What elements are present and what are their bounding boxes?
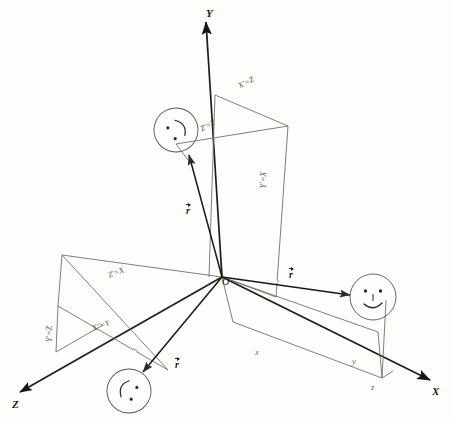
right-plane-top-edge: [222, 277, 378, 332]
upper-plane-top-edge: [215, 95, 288, 126]
face-left-eye: [364, 289, 367, 292]
left-plane-top-edge: [62, 255, 222, 277]
main-axes-group: [20, 22, 430, 392]
position-vectors-group: [143, 155, 350, 372]
face-right-eye: [166, 126, 170, 130]
z-axis-line: [20, 277, 222, 392]
right-plane-inner-vertical: [382, 300, 386, 378]
face-mouth: [175, 118, 188, 136]
vector-arrow-upper-left: [189, 155, 222, 277]
upper-plane-right-edge: [276, 126, 288, 297]
left-horizontal-plane: [56, 255, 222, 370]
face-outline-circle: [99, 361, 159, 421]
right-horizontal-plane: [222, 277, 393, 378]
left-plane-inner-diagonal: [62, 255, 168, 370]
left-plane-left-edge: [58, 255, 62, 306]
face-upper-left: [146, 100, 206, 160]
upper-projection-plane: [176, 95, 288, 297]
face-left-eye: [135, 385, 139, 389]
face-right-eye: [129, 397, 133, 401]
right-plane-bottom-edge: [233, 322, 382, 378]
face-left-eye: [173, 136, 177, 140]
upper-plane-diagonal: [176, 126, 288, 144]
face-right-eye: [379, 289, 382, 292]
left-plane-vertical-drop: [56, 306, 58, 352]
face-mouth: [364, 303, 382, 308]
face-lower-left: [99, 361, 159, 421]
coordinate-diagram-canvas: Y X Z O X'=Z Z'=Y Y'=X Z'=X X''=Y Y'=Z x…: [0, 0, 453, 423]
x-axis-line: [222, 277, 430, 380]
sketch-vector-layer: [0, 0, 453, 423]
face-right: [350, 274, 396, 320]
right-plane-lower-left-edge: [222, 277, 233, 322]
face-mouth: [117, 379, 130, 397]
face-outline-circle: [146, 100, 206, 160]
vector-arrow-lower-left: [143, 277, 222, 372]
y-axis-line: [206, 22, 222, 277]
right-plane-corner-tick: [382, 371, 393, 378]
